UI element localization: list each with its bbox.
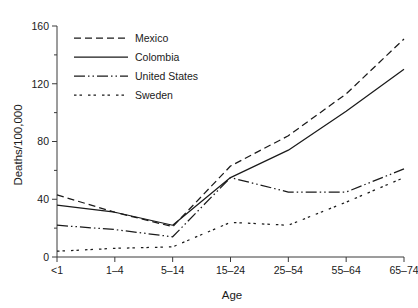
series-line-united-states (57, 169, 404, 237)
x-tick-label-group: <11–45–1415–2425–5455–6465–74 (51, 264, 418, 276)
line-chart: 04080120160 <11–45–1415–2425–5455–6465–7… (0, 0, 418, 308)
chart-canvas: 04080120160 <11–45–1415–2425–5455–6465–7… (0, 0, 418, 308)
y-axis-title: Deaths/100,000 (12, 104, 24, 185)
x-tick-label: 55–64 (332, 264, 361, 276)
y-tick-label: 0 (43, 251, 49, 263)
x-tick-group (57, 257, 404, 262)
x-tick-label: 1–4 (106, 264, 124, 276)
x-axis: <11–45–1415–2425–5455–6465–74 (51, 257, 418, 276)
y-axis: 04080120160 (31, 20, 57, 263)
y-tick-label-group: 04080120160 (31, 20, 49, 263)
legend-label-sweden: Sweden (135, 89, 173, 101)
series-group (57, 39, 404, 251)
y-tick-label: 160 (31, 20, 49, 32)
legend-label-colombia: Colombia (135, 51, 180, 63)
y-tick-label: 40 (37, 193, 49, 205)
x-tick-label: <1 (51, 264, 63, 276)
y-tick-label: 120 (31, 78, 49, 90)
x-tick-label: 15–24 (216, 264, 245, 276)
x-tick-label: 25–54 (274, 264, 303, 276)
x-axis-title: Age (222, 289, 242, 301)
x-tick-label: 5–14 (161, 264, 185, 276)
series-line-colombia (57, 69, 404, 225)
legend-label-mexico: Mexico (135, 32, 168, 44)
legend-label-united-states: United States (135, 70, 198, 82)
chart-legend: MexicoColombiaUnited StatesSweden (74, 32, 198, 101)
series-line-mexico (57, 39, 404, 227)
y-tick-group (52, 26, 57, 257)
x-tick-label: 65–74 (389, 264, 418, 276)
y-tick-label: 80 (37, 135, 49, 147)
series-line-sweden (57, 178, 404, 252)
